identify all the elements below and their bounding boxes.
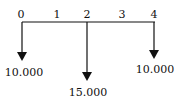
period-label-3: 3	[119, 9, 126, 20]
period-label-1: 1	[54, 9, 61, 20]
arrow-down-icon	[17, 52, 27, 61]
flow-amount-2: 15.000	[69, 87, 108, 98]
period-label-0: 0	[18, 9, 25, 20]
period-label-4: 4	[151, 9, 158, 20]
arrow-down-icon	[149, 50, 159, 59]
period-label-2: 2	[84, 9, 91, 20]
flow-amount-0: 10.000	[5, 67, 44, 78]
arrow-down-icon	[82, 72, 92, 81]
flow-amount-4: 10.000	[136, 64, 175, 75]
